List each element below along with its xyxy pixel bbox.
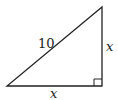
vertical-leg-label: x — [106, 39, 114, 54]
horizontal-leg-label: x — [50, 86, 58, 100]
hypotenuse-label: 10 — [38, 36, 55, 51]
right-angle-marker — [94, 79, 102, 86]
right-triangle-diagram: 10 x x — [0, 0, 118, 100]
